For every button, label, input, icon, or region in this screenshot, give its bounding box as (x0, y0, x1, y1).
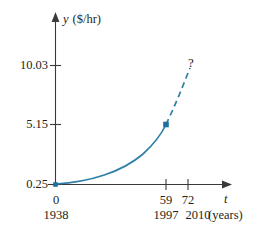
year-label-1938: 1938 (32, 209, 80, 222)
x-tick-label-0: 0 (44, 194, 68, 207)
y-axis-unit: ($/hr) (69, 12, 101, 26)
y-tick-label-0-25: 0.25 (0, 178, 48, 191)
y-axis-variable: y (63, 12, 69, 26)
curve-dashed-projected (166, 68, 190, 125)
y-tick-label-5-15: 5.15 (0, 118, 48, 131)
x-tick-label-59: 59 (154, 194, 178, 207)
x-axis-label: t (224, 193, 227, 206)
data-point-marker-origin (53, 182, 58, 187)
y-tick-label-10-03: 10.03 (0, 59, 48, 72)
data-point-marker-59 (163, 122, 169, 128)
x-axis-arrowhead (222, 181, 232, 189)
y-axis-arrowhead (52, 12, 60, 22)
x-tick-label-72: 72 (176, 194, 200, 207)
curve-solid-known (56, 125, 167, 185)
question-mark-annotation: ? (188, 56, 194, 69)
exponential-growth-chart: y($/hr) 10.03 5.15 0.25 0 59 72 1938 199… (0, 0, 268, 237)
y-axis-label: y($/hr) (63, 10, 101, 26)
x-axis-unit: (years) (208, 209, 243, 222)
